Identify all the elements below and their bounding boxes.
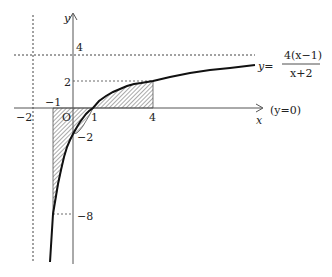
x-axis-note: (y=0) — [270, 104, 301, 117]
tick-y-neg2: −2 — [77, 131, 93, 144]
shaded-region-right — [93, 81, 153, 108]
function-graph: y x (y=0) O −2 −1 1 4 4 2 −2 −8 y= 4(x−1… — [0, 0, 332, 277]
function-label-lhs: y= — [257, 60, 273, 73]
tick-x-neg1: −1 — [45, 96, 61, 109]
y-axis-label: y — [63, 12, 71, 25]
tick-y-neg8: −8 — [77, 210, 93, 223]
function-label-numerator: 4(x−1) — [284, 49, 322, 62]
function-label-denominator: x+2 — [290, 67, 312, 80]
tick-x-4: 4 — [149, 111, 156, 124]
tick-y-2: 2 — [64, 76, 71, 89]
tick-x-neg2: −2 — [16, 111, 32, 124]
tick-x-1: 1 — [91, 111, 98, 124]
tick-y-4: 4 — [76, 41, 83, 54]
x-axis-label: x — [256, 114, 263, 127]
origin-label: O — [62, 111, 71, 124]
